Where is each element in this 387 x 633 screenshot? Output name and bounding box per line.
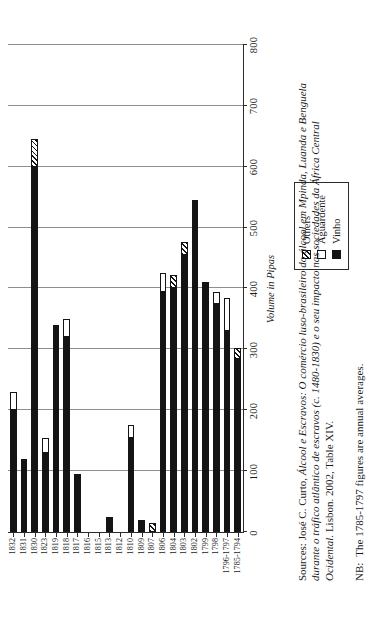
category-axis-label: 1812 <box>116 538 124 554</box>
category-axis-tick <box>120 533 121 537</box>
value-axis-tick-label: 400 <box>248 281 259 297</box>
bar-row <box>234 45 241 532</box>
value-axis-tick-label: 300 <box>248 342 259 358</box>
bar-row <box>128 45 135 532</box>
category-axis-tick <box>195 533 196 537</box>
category-axis-label: 1803 <box>180 538 188 554</box>
bar-row <box>31 45 38 532</box>
source-line-2: durante o tráfico atlântico de escravos … <box>309 286 322 581</box>
category-axis-label: 1807 <box>148 538 156 554</box>
legend-item-vinho: Vinho <box>331 195 342 259</box>
category-axis-tick <box>152 533 153 537</box>
category-axis-tick <box>174 533 175 537</box>
category-axis-tick <box>184 533 185 537</box>
value-axis-tick-label: 500 <box>248 220 259 236</box>
bar-row <box>213 45 220 532</box>
bar-row <box>170 45 177 532</box>
value-axis-labels: 0100200300400500600700800 <box>244 45 262 533</box>
bar-row <box>106 45 113 532</box>
category-axis-label: 1823 <box>41 538 49 554</box>
chart-plot-wrapper: 1785-17941796-17971798179918021803180418… <box>8 45 270 581</box>
source-label: Sources: <box>296 543 308 581</box>
bar-segment-vinho <box>170 289 177 533</box>
bar-segment-vinho <box>21 459 28 532</box>
bar-row <box>74 45 81 532</box>
value-axis-tick-label: 100 <box>248 464 259 480</box>
bar-segment-vinho <box>42 453 49 532</box>
figure-inner: 1785-17941796-17971798179918021803180418… <box>0 0 387 633</box>
category-axis-tick <box>35 533 36 537</box>
category-axis-label: 1785-1794 <box>234 538 242 573</box>
category-axis-label: 1804 <box>169 538 177 554</box>
bar-segment-vinho <box>138 520 145 532</box>
source-title-part-1: Álcool e Escravos: O comércio luso-brasi… <box>296 83 308 475</box>
bar-row <box>192 45 199 532</box>
category-axis-tick <box>109 533 110 537</box>
category-axis-tick <box>13 533 14 537</box>
bar-segment-vinho <box>234 359 241 532</box>
bar-segment-others <box>31 139 38 166</box>
bar-segment-vinho <box>202 282 209 532</box>
bar-segment-vinho <box>10 410 17 532</box>
category-axis-tick <box>238 533 239 537</box>
bar-row <box>160 45 167 532</box>
figure-stage: 1785-17941796-17971798179918021803180418… <box>0 0 387 633</box>
bar-row <box>42 45 49 532</box>
bar-segment-aguardente <box>128 425 135 437</box>
category-axis-tick <box>131 533 132 537</box>
category-axis: 1785-17941796-17971798179918021803180418… <box>8 533 244 581</box>
bar-segment-others <box>170 275 177 288</box>
source-publication: Lisbon. 2002, Table XIV. <box>323 421 335 532</box>
nb-text: The 1785-1797 figures are annual average… <box>353 364 365 557</box>
bar-segment-vinho <box>160 292 167 532</box>
category-axis-tick <box>142 533 143 537</box>
category-axis-label: 1813 <box>105 538 113 554</box>
bar-segment-aguardente <box>63 319 70 337</box>
bar-segment-vinho <box>53 325 60 532</box>
category-axis-label: 1799 <box>202 538 210 554</box>
category-axis-label: 1798 <box>212 538 220 554</box>
bar-row <box>53 45 60 532</box>
bar-segment-others <box>149 523 156 532</box>
bar-segment-vinho <box>181 255 188 532</box>
category-axis-tick <box>67 533 68 537</box>
plot-area <box>8 45 244 533</box>
bar-row <box>10 45 17 532</box>
category-axis-label: 1796-1797 <box>223 538 231 573</box>
source-title-part-3: Ocidental. <box>323 535 335 581</box>
category-axis-tick <box>77 533 78 537</box>
category-axis-tick <box>227 533 228 537</box>
category-axis-label: 1817 <box>73 538 81 554</box>
category-axis-label: 1816 <box>84 538 92 554</box>
category-axis-tick <box>24 533 25 537</box>
category-axis-label: 1818 <box>63 538 71 554</box>
bar-segment-vinho <box>192 200 199 532</box>
category-axis-label: 1806 <box>159 538 167 554</box>
category-axis-tick <box>163 533 164 537</box>
category-axis-tick <box>206 533 207 537</box>
bar-segment-vinho <box>31 167 38 532</box>
bar-segment-aguardente <box>213 292 220 304</box>
bar-segment-vinho <box>74 474 81 532</box>
bar-segment-aguardente <box>160 273 167 291</box>
category-axis-label: 1802 <box>191 538 199 554</box>
category-axis-label: 1810 <box>127 538 135 554</box>
source-line-1: Sources: José C. Curto, Álcool e Escravo… <box>296 286 309 581</box>
source-note: Sources: José C. Curto, Álcool e Escravo… <box>296 286 336 581</box>
bar-segment-others <box>181 242 188 255</box>
value-axis-title: Volume in Pipas <box>265 45 276 533</box>
value-axis-tick-label: 200 <box>248 403 259 419</box>
category-axis-label: 1832 <box>9 538 17 554</box>
value-axis-tick-label: 800 <box>248 37 259 53</box>
category-axis-label: 1830 <box>31 538 39 554</box>
bar-segment-vinho <box>128 438 135 532</box>
bar-row <box>21 45 28 532</box>
category-axis-label: 1809 <box>137 538 145 554</box>
source-author: José C. Curto, <box>296 478 308 540</box>
value-axis-tick-label: 0 <box>248 530 259 535</box>
category-axis-label: 1819 <box>52 538 60 554</box>
category-axis-tick <box>56 533 57 537</box>
category-axis-tick <box>88 533 89 537</box>
bar-segment-vinho <box>213 304 220 532</box>
bar-row <box>63 45 70 532</box>
